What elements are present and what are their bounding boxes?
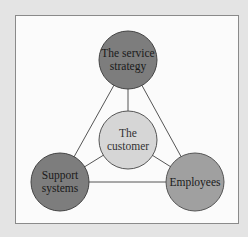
node-support-systems: Support systems — [31, 153, 89, 211]
node-label: Employees — [169, 176, 221, 189]
service-triangle-diagram: The service strategy The customer Suppor… — [0, 0, 248, 237]
node-label: strategy — [110, 60, 147, 73]
node-label: Support — [42, 169, 79, 182]
node-label: The — [119, 127, 137, 139]
node-service-strategy: The service strategy — [99, 31, 157, 89]
node-label: The service — [101, 47, 154, 59]
node-employees: Employees — [166, 153, 224, 211]
node-customer: The customer — [99, 111, 157, 169]
node-label: systems — [42, 182, 79, 195]
node-label: customer — [107, 140, 149, 152]
